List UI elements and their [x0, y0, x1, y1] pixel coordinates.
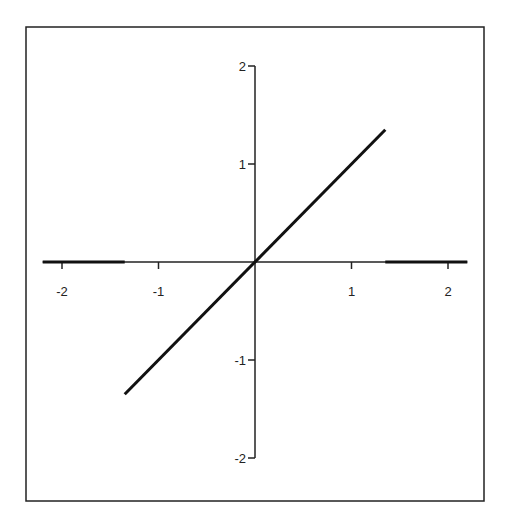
y-tick-label: 2: [239, 59, 246, 74]
y-tick-label: -2: [234, 451, 246, 466]
x-tick-label: -2: [56, 284, 68, 299]
y-tick-label: -1: [234, 353, 246, 368]
x-tick-label: 2: [444, 284, 451, 299]
y-tick-label: 1: [239, 157, 246, 172]
x-tick-label: -1: [153, 284, 165, 299]
x-tick-label: 1: [348, 284, 355, 299]
chart: -2-11221-1-2: [0, 0, 513, 528]
